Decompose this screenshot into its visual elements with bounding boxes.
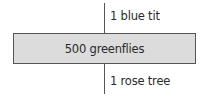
rose-tree-level-line bbox=[104, 64, 105, 94]
blue-tit-level-line bbox=[104, 3, 105, 34]
blue-tit-label: 1 blue tit bbox=[110, 9, 160, 23]
greenflies-label: 500 greenflies bbox=[65, 42, 145, 56]
rose-tree-label: 1 rose tree bbox=[110, 74, 170, 88]
greenflies-level-bar: 500 greenflies bbox=[13, 33, 196, 64]
